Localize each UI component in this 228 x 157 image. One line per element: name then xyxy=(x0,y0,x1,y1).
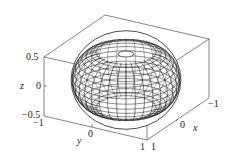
x-tick-0: 0 xyxy=(180,120,185,130)
z-axis-label: z xyxy=(20,81,24,91)
x-tick-neg1: −1 xyxy=(208,99,219,109)
torus-surface xyxy=(71,31,181,130)
torus-plot xyxy=(0,0,228,157)
y-tick-1: 1 xyxy=(140,142,145,152)
z-tick-0: 0 xyxy=(36,81,41,91)
y-tick-neg1: −1 xyxy=(33,118,44,128)
z-tick-0.5: 0.5 xyxy=(26,52,39,62)
y-axis-label: y xyxy=(77,136,81,146)
x-tick-1: 1 xyxy=(151,142,156,152)
x-axis-label: x xyxy=(193,123,197,133)
y-tick-0: 0 xyxy=(88,129,93,139)
